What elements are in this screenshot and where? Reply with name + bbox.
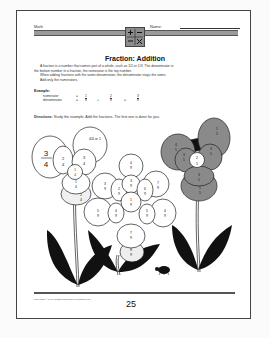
svg-text:5: 5 [216, 132, 218, 136]
svg-text:9: 9 [157, 186, 159, 190]
svg-text:9: 9 [130, 253, 132, 257]
svg-text:9: 9 [130, 184, 132, 188]
svg-text:3: 3 [130, 179, 132, 183]
svg-text:9: 9 [115, 214, 117, 218]
svg-text:5: 5 [196, 162, 198, 166]
svg-text:9: 9 [130, 203, 132, 207]
page-number: 25 [0, 299, 262, 309]
svg-text:9: 9 [144, 192, 146, 196]
svg-text:5: 5 [199, 191, 201, 195]
svg-text:9: 9 [104, 187, 106, 191]
svg-text:9: 9 [130, 236, 132, 240]
svg-text:3: 3 [198, 173, 200, 177]
svg-text:9: 9 [146, 214, 148, 218]
svg-text:9: 9 [164, 214, 166, 218]
svg-text:7: 7 [130, 231, 132, 235]
svg-text:9: 9 [97, 214, 99, 218]
footer-bar [34, 292, 235, 294]
svg-text:4: 4 [75, 185, 77, 189]
svg-text:1: 1 [216, 127, 218, 131]
svg-text:8: 8 [130, 248, 132, 252]
petal-fraction-3-4-num: 3 [44, 149, 49, 158]
svg-text:5: 5 [183, 158, 185, 162]
svg-text:4: 4 [115, 209, 117, 213]
svg-text:3: 3 [104, 182, 106, 186]
svg-text:4: 4 [44, 160, 49, 169]
svg-text:1: 1 [130, 198, 132, 202]
svg-text:2: 2 [196, 156, 198, 160]
svg-text:5: 5 [97, 209, 99, 213]
svg-text:5: 5 [146, 209, 148, 213]
svg-text:5: 5 [175, 148, 177, 152]
svg-text:5: 5 [198, 178, 200, 182]
svg-text:3: 3 [210, 147, 212, 151]
right-flower: 45 35 15 35 25 35 55 [161, 118, 230, 201]
svg-text:4: 4 [80, 198, 82, 202]
svg-text:4: 4 [175, 143, 177, 147]
svg-text:4: 4 [164, 209, 166, 213]
svg-text:6: 6 [144, 187, 146, 191]
ladybug-icon [155, 266, 170, 275]
svg-text:4/4 or 1: 4/4 or 1 [89, 137, 101, 141]
svg-text:7: 7 [157, 181, 159, 185]
svg-text:4: 4 [130, 161, 132, 165]
svg-text:5: 5 [199, 186, 201, 190]
svg-text:5: 5 [210, 152, 212, 156]
flowers-illustration: 3 4 2 4 3 4 4/4 or 1 1 4 1 4 2 4 [0, 0, 270, 338]
svg-text:3: 3 [183, 153, 185, 157]
svg-text:9: 9 [118, 192, 120, 196]
svg-text:9: 9 [130, 166, 132, 170]
svg-text:2: 2 [80, 193, 82, 197]
svg-text:2: 2 [118, 187, 120, 191]
svg-text:1: 1 [75, 180, 77, 184]
